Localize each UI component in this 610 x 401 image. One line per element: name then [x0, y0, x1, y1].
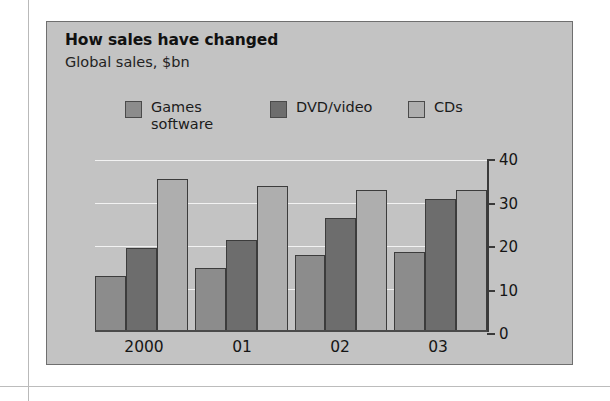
page-left-rule: [28, 0, 29, 401]
y-tick-30: [487, 203, 495, 205]
legend-label-games-software: Games software: [151, 99, 213, 132]
bar-2000-games-software: [95, 276, 126, 332]
legend-item-cds: CDs: [408, 99, 463, 118]
bar-group-2000: [95, 160, 188, 332]
bar-03-dvd-video: [425, 199, 456, 332]
y-axis: 010203040: [487, 160, 547, 334]
axis-baseline: [95, 330, 487, 332]
y-tick-0: [487, 333, 495, 335]
legend-label-cds: CDs: [434, 99, 463, 116]
legend-label-dvd-video: DVD/video: [296, 99, 373, 116]
page-bottom-rule: [0, 386, 610, 387]
bar-02-cds: [356, 190, 387, 332]
chart-title: How sales have changed: [65, 31, 278, 49]
y-tick-label-20: 20: [499, 238, 518, 256]
bar-01-cds: [257, 186, 288, 332]
chart-subtitle: Global sales, $bn: [65, 54, 190, 70]
y-tick-label-0: 0: [499, 325, 509, 343]
y-tick-20: [487, 246, 495, 248]
y-tick-label-30: 30: [499, 195, 518, 213]
bar-01-games-software: [195, 268, 226, 333]
y-tick-10: [487, 290, 495, 292]
legend-item-games-software: Games software: [125, 99, 213, 132]
legend-swatch-games-software: [125, 101, 142, 118]
x-axis-label-03: 03: [389, 338, 487, 356]
chart-legend: Games software DVD/video CDs: [125, 99, 555, 145]
bar-01-dvd-video: [226, 240, 257, 332]
chart-figure: How sales have changed Global sales, $bn…: [46, 21, 573, 365]
bar-group-02: [295, 160, 388, 332]
bar-03-cds: [456, 190, 487, 332]
bar-group-03: [394, 160, 487, 332]
plot-area: [95, 160, 487, 332]
bar-02-dvd-video: [325, 218, 356, 332]
x-axis-label-02: 02: [291, 338, 389, 356]
bar-2000-dvd-video: [126, 248, 157, 332]
y-tick-label-40: 40: [499, 151, 518, 169]
bar-2000-cds: [157, 179, 188, 332]
bar-groups: [95, 160, 487, 332]
y-tick-40: [487, 159, 495, 161]
bar-03-games-software: [394, 252, 425, 332]
bar-02-games-software: [295, 255, 326, 332]
legend-swatch-dvd-video: [270, 101, 287, 118]
y-tick-label-10: 10: [499, 282, 518, 300]
legend-item-dvd-video: DVD/video: [270, 99, 373, 118]
legend-swatch-cds: [408, 101, 425, 118]
x-axis-label-01: 01: [193, 338, 291, 356]
x-axis-label-2000: 2000: [95, 338, 193, 356]
x-axis-labels: 2000010203: [95, 338, 487, 356]
bar-group-01: [195, 160, 288, 332]
